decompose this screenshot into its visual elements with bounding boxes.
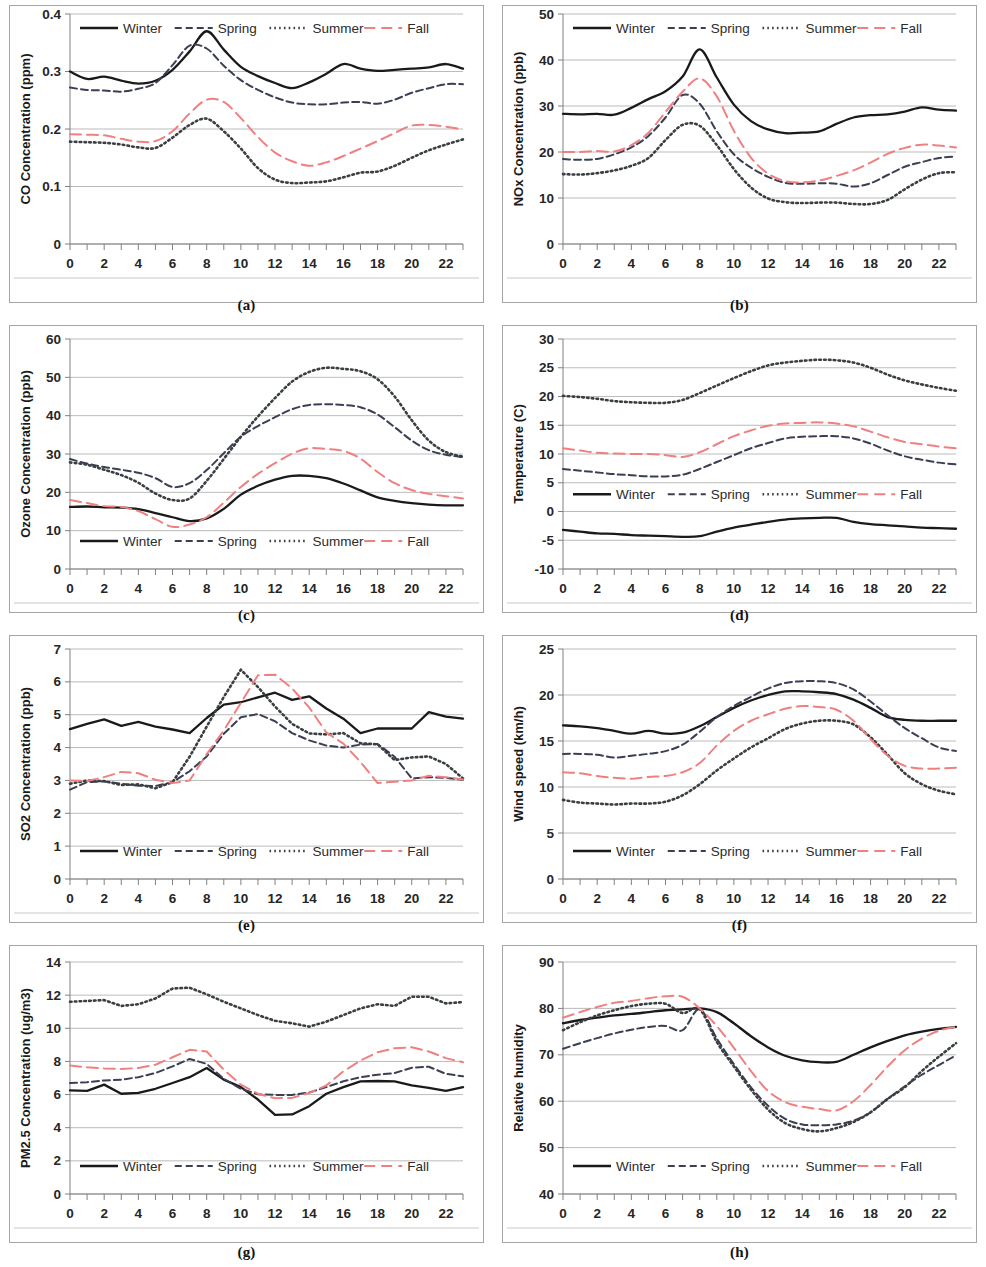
x-ticks <box>70 879 463 885</box>
series-group <box>563 996 956 1132</box>
legend-label-winter[interactable]: Winter <box>123 1159 163 1174</box>
legend-label-winter[interactable]: Winter <box>616 844 656 859</box>
legend-label-fall[interactable]: Fall <box>407 844 429 859</box>
y-tick-label: 20 <box>539 145 554 160</box>
legend-label-fall[interactable]: Fall <box>900 844 922 859</box>
y-tick-label: 10 <box>539 191 554 206</box>
y-tick-label: -5 <box>542 533 554 548</box>
legend-label-spring[interactable]: Spring <box>711 21 750 36</box>
y-tick-label: 0 <box>546 504 554 519</box>
x-tick-labels: 0246810121416182022 <box>559 1206 946 1221</box>
series-line-summer <box>70 368 463 501</box>
legend-label-summer[interactable]: Summer <box>313 844 365 859</box>
legend-label-summer[interactable]: Summer <box>313 21 365 36</box>
legend-label-spring[interactable]: Spring <box>218 534 257 549</box>
x-ticks <box>563 244 956 250</box>
y-tick-label: 0 <box>53 237 61 252</box>
y-axis-title: NOx Concentration (ppb) <box>511 52 526 207</box>
x-tick-label: 10 <box>233 1206 248 1221</box>
x-tick-label: 4 <box>628 256 636 271</box>
x-tick-label: 12 <box>761 891 776 906</box>
panel-caption-b: (b) <box>493 297 986 314</box>
y-axis-title: CO Concentration (ppm) <box>18 54 33 205</box>
legend-label-fall[interactable]: Fall <box>407 534 429 549</box>
y-tick-label: 0 <box>53 1187 61 1202</box>
x-tick-label: 22 <box>931 891 946 906</box>
panel-caption-g: (g) <box>0 1244 493 1261</box>
series-line-winter <box>563 518 956 537</box>
series-line-winter <box>563 49 956 133</box>
legend: WinterSpringSummerFall <box>573 487 922 502</box>
y-tick-label: 15 <box>539 734 555 749</box>
legend-label-fall[interactable]: Fall <box>407 1159 429 1174</box>
x-tick-label: 14 <box>302 1206 318 1221</box>
legend-label-spring[interactable]: Spring <box>711 844 750 859</box>
legend-label-winter[interactable]: Winter <box>123 534 163 549</box>
y-tick-label: 0 <box>546 872 554 887</box>
series-group <box>563 681 956 805</box>
legend-label-summer[interactable]: Summer <box>806 844 858 859</box>
y-tick-label: 10 <box>46 523 61 538</box>
legend-label-winter[interactable]: Winter <box>123 844 163 859</box>
legend-label-spring[interactable]: Spring <box>218 21 257 36</box>
x-tick-label: 16 <box>336 1206 352 1221</box>
series-line-spring <box>563 94 956 186</box>
x-tick-label: 12 <box>268 256 283 271</box>
x-tick-label: 6 <box>169 891 177 906</box>
x-tick-label: 14 <box>795 1206 811 1221</box>
legend-label-spring[interactable]: Spring <box>218 1159 257 1174</box>
x-tick-label: 4 <box>135 1206 143 1221</box>
series-line-summer <box>563 123 956 204</box>
legend-label-fall[interactable]: Fall <box>900 487 922 502</box>
y-tick-label: -10 <box>534 562 554 577</box>
series-line-summer <box>563 1003 956 1131</box>
y-tick-label: 50 <box>539 1140 554 1155</box>
y-tick-label: 3 <box>53 773 61 788</box>
x-tick-label: 6 <box>662 581 670 596</box>
series-line-winter <box>70 31 463 88</box>
x-tick-label: 2 <box>593 1206 601 1221</box>
series-line-spring <box>70 404 463 487</box>
legend-label-summer[interactable]: Summer <box>313 1159 365 1174</box>
y-tick-label: 30 <box>539 332 554 347</box>
x-tick-label: 20 <box>404 581 419 596</box>
legend-label-summer[interactable]: Summer <box>313 534 365 549</box>
chart-svg-a: 00.10.20.30.40246810121416182022CO Conce… <box>8 4 485 304</box>
x-tick-label: 18 <box>863 891 879 906</box>
x-tick-label: 22 <box>438 256 453 271</box>
y-tick-label: 20 <box>46 485 61 500</box>
x-tick-label: 12 <box>761 256 776 271</box>
legend-label-winter[interactable]: Winter <box>616 487 656 502</box>
x-ticks <box>70 569 463 575</box>
x-tick-label: 0 <box>66 891 74 906</box>
series-line-summer <box>70 988 463 1027</box>
y-tick-label: 0.3 <box>42 64 61 79</box>
legend-label-winter[interactable]: Winter <box>616 21 656 36</box>
x-tick-label: 0 <box>559 891 567 906</box>
chart-outer-border <box>503 946 977 1243</box>
legend-label-fall[interactable]: Fall <box>900 21 922 36</box>
legend-label-fall[interactable]: Fall <box>407 21 429 36</box>
y-axis-title: Wind speed (km/h) <box>511 706 526 821</box>
x-tick-label: 18 <box>370 1206 386 1221</box>
legend-label-spring[interactable]: Spring <box>711 487 750 502</box>
y-tick-label: 7 <box>53 642 61 657</box>
legend-label-summer[interactable]: Summer <box>806 487 858 502</box>
y-tick-label: 0.1 <box>42 179 61 194</box>
series-line-spring <box>70 44 463 104</box>
x-tick-label: 4 <box>135 891 143 906</box>
panel-caption-h: (h) <box>493 1244 986 1261</box>
y-tick-label: 0 <box>53 562 61 577</box>
legend-label-spring[interactable]: Spring <box>711 1159 750 1174</box>
x-ticks <box>70 244 463 250</box>
legend-label-spring[interactable]: Spring <box>218 844 257 859</box>
legend-label-summer[interactable]: Summer <box>806 21 858 36</box>
series-line-winter <box>70 475 463 521</box>
legend-label-winter[interactable]: Winter <box>123 21 163 36</box>
x-tick-label: 4 <box>135 256 143 271</box>
chart-svg-e: 012345670246810121416182022SO2 Concentra… <box>8 634 485 924</box>
y-axis-title: Relative humidity <box>511 1023 526 1131</box>
legend-label-fall[interactable]: Fall <box>900 1159 922 1174</box>
legend-label-winter[interactable]: Winter <box>616 1159 656 1174</box>
legend-label-summer[interactable]: Summer <box>806 1159 858 1174</box>
